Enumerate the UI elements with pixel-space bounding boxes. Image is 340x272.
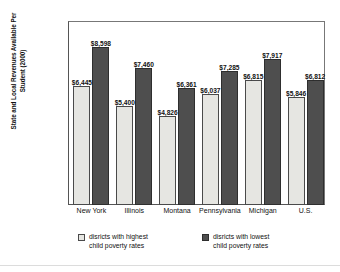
bar-value-label: $8,598 (91, 40, 111, 47)
legend-label-lowest-poverty: disricts with lowest child poverty rates (213, 233, 269, 250)
bar-lowest-poverty: $7,917 (264, 59, 281, 205)
bar-highest-poverty: $6,815 (245, 80, 262, 205)
bar-group: $5,400$7,460 (116, 21, 152, 205)
y-axis-title: State and Local Revenues Available Per S… (10, 6, 38, 136)
x-axis-tick-labels: New YorkIllinoisMontanaPennsylvaniaMichi… (68, 207, 325, 221)
x-axis-tick-label: Michigan (249, 207, 277, 214)
bar-group: $6,445$8,598 (73, 21, 109, 205)
bar-value-label: $6,037 (200, 87, 220, 94)
bar-lowest-poverty: $6,361 (178, 88, 195, 205)
bar-value-label: $7,460 (134, 61, 154, 68)
x-axis-tick-label: Montana (163, 207, 190, 214)
x-axis-tick-label: Pennsylvania (199, 207, 241, 214)
bar-lowest-poverty: $6,812 (307, 80, 324, 205)
bars-layer: $6,445$8,598$5,400$7,460$4,826$6,361$6,0… (68, 21, 325, 205)
legend-swatch-light (78, 234, 85, 241)
legend-label-highest-poverty: disricts with highest child poverty rate… (89, 233, 148, 250)
bar-highest-poverty: $5,846 (288, 97, 305, 205)
bar-highest-poverty: $5,400 (116, 106, 133, 205)
bar-value-label: $6,812 (305, 73, 325, 80)
bar-value-label: $5,400 (115, 99, 135, 106)
chart-legend: disricts with highest child poverty rate… (68, 233, 325, 257)
bar-highest-poverty: $6,445 (73, 86, 90, 205)
x-axis-tick-label: Illinois (125, 207, 144, 214)
bar-group: $6,037$7,285 (202, 21, 238, 205)
x-axis-tick-label: U.S. (299, 207, 313, 214)
bar-value-label: $7,285 (219, 64, 239, 71)
bottom-divider (0, 265, 340, 266)
legend-item-lowest-poverty: disricts with lowest child poverty rates (202, 233, 269, 250)
legend-item-highest-poverty: disricts with highest child poverty rate… (78, 233, 148, 250)
bar-chart: State and Local Revenues Available Per S… (0, 0, 340, 272)
bar-value-label: $4,826 (157, 109, 177, 116)
legend-swatch-dark (202, 234, 209, 241)
bar-group: $6,815$7,917 (245, 21, 281, 205)
bar-value-label: $6,815 (243, 73, 263, 80)
bar-value-label: $6,361 (176, 81, 196, 88)
bar-highest-poverty: $4,826 (159, 116, 176, 205)
bar-lowest-poverty: $7,460 (135, 68, 152, 205)
bar-group: $4,826$6,361 (159, 21, 195, 205)
bar-lowest-poverty: $7,285 (221, 71, 238, 205)
bar-group: $5,846$6,812 (288, 21, 324, 205)
bar-lowest-poverty: $8,598 (92, 47, 109, 205)
bar-value-label: $6,445 (72, 79, 92, 86)
bar-value-label: $5,846 (286, 90, 306, 97)
x-axis-tick-label: New York (77, 207, 107, 214)
bar-value-label: $7,917 (262, 52, 282, 59)
bar-highest-poverty: $6,037 (202, 94, 219, 205)
